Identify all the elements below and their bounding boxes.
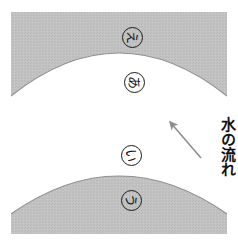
marker-e-char: え [126,31,139,44]
marker-a-char: あ [128,76,141,89]
water-flow-diagram: え あ い う 水の流れ [0,0,238,246]
marker-i-char: い [125,149,138,162]
marker-u-char: う [125,194,138,207]
flow-label: 水の流れ [208,117,234,177]
marker-u: う [121,190,142,211]
marker-i: い [121,145,142,166]
diagram-canvas [0,0,238,246]
marker-e: え [122,27,143,48]
marker-a: あ [124,72,145,93]
